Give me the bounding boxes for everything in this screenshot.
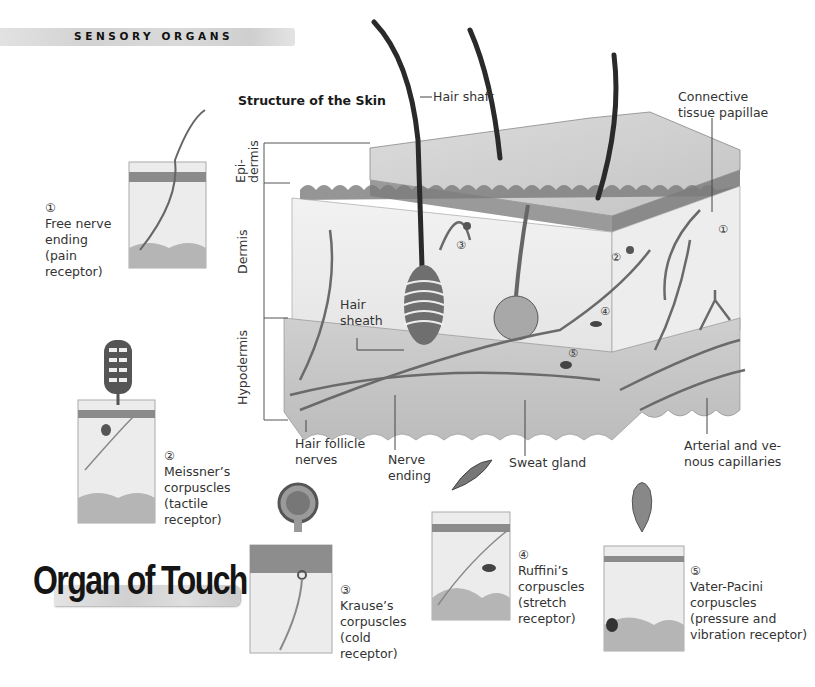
marker-2: ② bbox=[611, 250, 621, 266]
layer-label-dermis: Dermis bbox=[236, 230, 249, 274]
receptor-type-line1: (tactile bbox=[164, 496, 208, 511]
receptor-name-line1: Krause’s bbox=[340, 598, 394, 613]
callout-connective-tissue: Connective tissue papillae bbox=[678, 89, 768, 121]
hair-sheath-line2: sheath bbox=[340, 313, 383, 328]
receptor-caption-krause: ③ Krause’s corpuscles (cold receptor) bbox=[340, 582, 407, 662]
receptor-name-line2: corpuscles bbox=[518, 579, 585, 594]
callout-nerve-ending: Nerve ending bbox=[388, 452, 431, 484]
marker-1: ① bbox=[718, 222, 728, 238]
marker-3: ③ bbox=[456, 238, 466, 254]
inset-vater-pacini bbox=[604, 483, 684, 652]
receptor-name-line2: corpuscles bbox=[690, 595, 757, 610]
capillaries-line2: nous capillaries bbox=[684, 454, 781, 469]
nerve-ending-line1: Nerve bbox=[388, 452, 425, 467]
nerve-ending-line2: ending bbox=[388, 468, 431, 483]
hair-sheath-line1: Hair bbox=[340, 297, 366, 312]
receptor-type-line1: (cold bbox=[340, 630, 371, 645]
receptor-number: ⑤ bbox=[690, 563, 807, 579]
receptor-caption-meissner: ② Meissner’s corpuscles (tactile recepto… bbox=[164, 448, 231, 528]
diagram-title: Structure of the Skin bbox=[238, 93, 386, 108]
callout-hair-follicle-nerves: Hair follicle nerves bbox=[295, 436, 365, 468]
callout-sweat-gland: Sweat gland bbox=[509, 455, 586, 471]
receptor-name-line2: corpuscles bbox=[340, 614, 407, 629]
receptor-caption-ruffini: ④ Ruffini’s corpuscles (stretch receptor… bbox=[518, 547, 585, 627]
layer-label-epidermis: Epi- dermis bbox=[234, 140, 260, 183]
receptor-caption-free-nerve: ① Free nerve ending (pain receptor) bbox=[45, 200, 111, 280]
receptor-type-line1: (pain bbox=[45, 248, 77, 263]
page-title: Organ of Touch bbox=[33, 557, 247, 604]
layer-label-hypodermis: Hypodermis bbox=[236, 330, 249, 405]
receptor-name-line1: Ruffini’s bbox=[518, 563, 568, 578]
receptor-name-line1: Free nerve bbox=[45, 216, 111, 231]
receptor-type-line1: (stretch bbox=[518, 595, 567, 610]
capillaries-line1: Arterial and ve- bbox=[684, 438, 781, 453]
receptor-number: ① bbox=[45, 200, 111, 216]
receptor-name-line2: ending bbox=[45, 232, 88, 247]
hair-follicle-line2: nerves bbox=[295, 452, 337, 467]
receptor-name-line2: corpuscles bbox=[164, 480, 231, 495]
receptor-number: ④ bbox=[518, 547, 585, 563]
receptor-type-line2: vibration receptor) bbox=[690, 627, 807, 642]
callout-hair-sheath: Hair sheath bbox=[340, 297, 383, 329]
epidermis-line2: dermis bbox=[246, 140, 261, 183]
inset-meissner bbox=[78, 340, 155, 523]
inset-free-nerve-ending bbox=[129, 110, 206, 268]
connective-line2: tissue papillae bbox=[678, 105, 768, 120]
receptor-caption-vater-pacini: ⑤ Vater-Pacini corpuscles (pressure and … bbox=[690, 563, 807, 643]
receptor-type-line1: (pressure and bbox=[690, 611, 776, 626]
hair-follicle bbox=[404, 265, 444, 345]
receptor-type-line2: receptor) bbox=[164, 512, 222, 527]
receptor-type-line2: receptor) bbox=[340, 646, 398, 661]
receptor-type-line2: receptor) bbox=[518, 611, 576, 626]
callout-capillaries: Arterial and ve- nous capillaries bbox=[684, 438, 781, 470]
receptor-number: ③ bbox=[340, 582, 407, 598]
callout-hair-shaft: Hair shaft bbox=[433, 89, 494, 105]
receptor-type-line2: receptor) bbox=[45, 264, 103, 279]
receptor-number: ② bbox=[164, 448, 231, 464]
receptor-name-line1: Vater-Pacini bbox=[690, 579, 763, 594]
connective-line1: Connective bbox=[678, 89, 748, 104]
inset-ruffini bbox=[432, 460, 510, 620]
marker-4: ④ bbox=[600, 304, 610, 320]
hair-follicle-line1: Hair follicle bbox=[295, 436, 365, 451]
inset-krause bbox=[250, 484, 332, 653]
marker-5: ⑤ bbox=[568, 346, 578, 362]
receptor-name-line1: Meissner’s bbox=[164, 464, 230, 479]
